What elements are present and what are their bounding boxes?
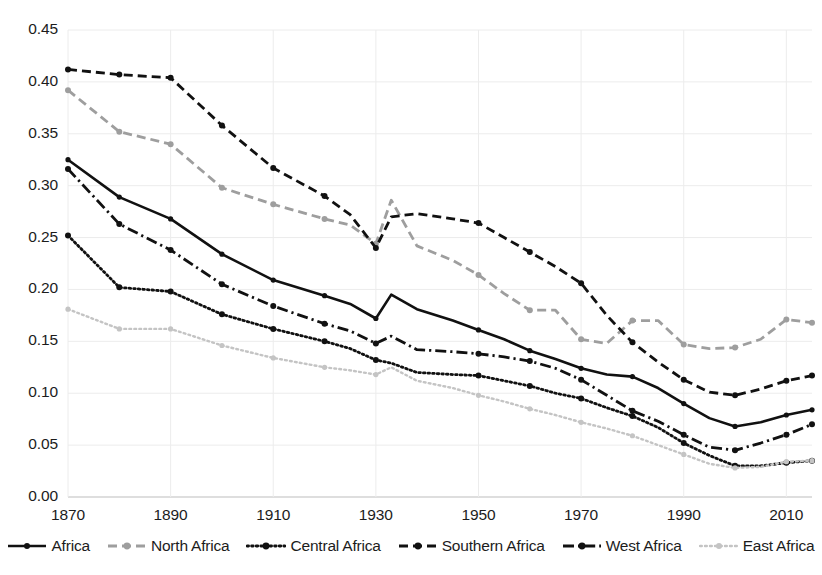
x-axis-tick-label: 1870 <box>38 506 98 524</box>
chart-legend: AfricaNorth AfricaCentral AfricaSouthern… <box>0 533 822 559</box>
y-axis-tick-label: 0.20 <box>28 279 58 297</box>
dashed-gray-line-key <box>107 539 147 553</box>
x-axis-tick-label: 1970 <box>551 506 611 524</box>
legend-item-north-africa[interactable]: North Africa <box>107 537 230 555</box>
legend-label: Central Africa <box>290 537 380 555</box>
series-north-africa <box>65 87 815 350</box>
legend-label: East Africa <box>743 537 815 555</box>
series-west-africa <box>65 166 815 453</box>
legend-label: West Africa <box>606 537 682 555</box>
dotted-light-line-key <box>699 539 739 553</box>
plot-area <box>0 0 822 575</box>
y-axis-tick-label: 0.00 <box>28 487 58 505</box>
legend-item-west-africa[interactable]: West Africa <box>562 537 682 555</box>
y-axis-tick-label: 0.35 <box>28 124 58 142</box>
y-axis-tick-label: 0.30 <box>28 176 58 194</box>
x-axis-tick-label: 1930 <box>346 506 406 524</box>
legend-label: Africa <box>51 537 89 555</box>
legend-item-africa[interactable]: Africa <box>7 537 89 555</box>
x-axis-tick-label: 1910 <box>243 506 303 524</box>
y-axis-tick-label: 0.40 <box>28 72 58 90</box>
y-axis-tick-label: 0.15 <box>28 331 58 349</box>
legend-item-east-africa[interactable]: East Africa <box>699 537 815 555</box>
x-axis-tick-label: 1950 <box>448 506 508 524</box>
gridlines <box>68 30 812 497</box>
series-lines <box>65 66 815 470</box>
legend-item-central-africa[interactable]: Central Africa <box>246 537 380 555</box>
y-axis-tick-label: 0.10 <box>28 383 58 401</box>
solid-line-key <box>7 539 47 553</box>
y-axis-tick-label: 0.25 <box>28 228 58 246</box>
legend-item-southern-africa[interactable]: Southern Africa <box>398 537 545 555</box>
y-axis-tick-label: 0.05 <box>28 435 58 453</box>
dashdot-line-key <box>562 539 602 553</box>
x-axis-tick-label: 1890 <box>141 506 201 524</box>
x-axis-tick-label: 1990 <box>654 506 714 524</box>
y-axis-tick-label: 0.45 <box>28 20 58 38</box>
x-axis-tick-label: 2010 <box>756 506 816 524</box>
legend-label: Southern Africa <box>442 537 545 555</box>
legend-label: North Africa <box>151 537 230 555</box>
line-chart: 0.000.050.100.150.200.250.300.350.400.45… <box>0 0 822 575</box>
dotted-line-key <box>246 539 286 553</box>
dashed-line-key <box>398 539 438 553</box>
